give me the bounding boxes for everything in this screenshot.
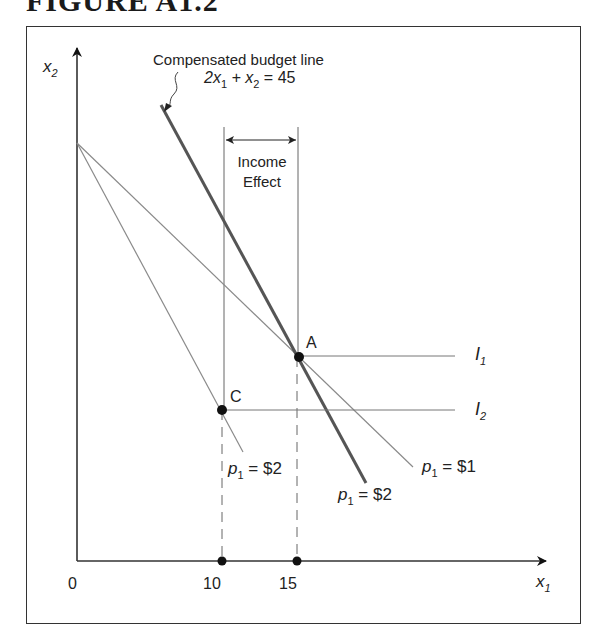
point-c-label: C	[230, 389, 242, 405]
price-label-compensated: p1 = $2	[338, 486, 392, 507]
i2-label: I2	[475, 400, 486, 422]
budget-line-p1-2-original	[77, 143, 243, 452]
tick-point-10	[218, 557, 227, 566]
pointer-arrowhead	[164, 103, 172, 112]
price-label-original: p1 = $2	[228, 460, 282, 481]
compensated-line-equation: 2x1 + x2 = 45	[204, 70, 295, 90]
tick-label-0: 0	[68, 576, 77, 592]
i1-label: I1	[475, 345, 486, 367]
pointer-squiggle	[168, 72, 178, 108]
income-effect-label: Income Effect	[233, 152, 291, 192]
point-a-label: A	[306, 335, 317, 351]
tick-label-15: 15	[279, 576, 297, 592]
x-axis-label: x1	[536, 573, 551, 594]
tick-label-10: 10	[203, 576, 221, 592]
point-a	[294, 352, 304, 362]
y-axis-label: x2	[43, 58, 58, 79]
tick-point-15	[293, 557, 302, 566]
price-label-new: p1 = $1	[422, 458, 476, 479]
point-c	[217, 405, 227, 415]
diagram-canvas	[0, 0, 596, 642]
compensated-line-title: Compensated budget line	[153, 52, 324, 67]
